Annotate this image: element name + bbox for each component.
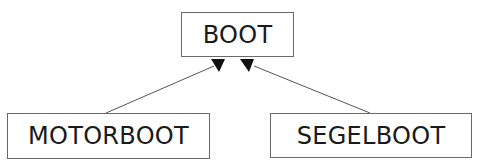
arrowhead-right xyxy=(240,59,254,72)
arrowhead-left xyxy=(211,59,225,72)
class-label-segelboot: SEGELBOOT xyxy=(297,122,446,150)
class-box-segelboot: SEGELBOOT xyxy=(270,113,472,158)
edge-segelboot-to-boot xyxy=(254,66,370,113)
class-label-motorboot: MOTORBOOT xyxy=(28,122,189,150)
class-box-boot: BOOT xyxy=(181,12,294,57)
class-label-boot: BOOT xyxy=(203,21,273,49)
class-box-motorboot: MOTORBOOT xyxy=(7,113,210,159)
edge-motorboot-to-boot xyxy=(106,66,214,113)
